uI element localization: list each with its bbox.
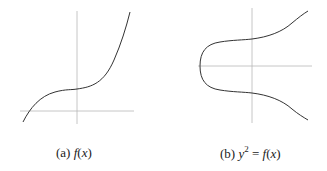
caption-a-label: (a) — [56, 145, 70, 160]
caption-b: (b) y2 = f(x) — [220, 145, 281, 162]
panel-b-elliptic-curve-lower — [200, 66, 308, 120]
caption-b-label: (b) — [220, 146, 235, 161]
caption-a: (a) f(x) — [56, 145, 92, 161]
panel-a-cubic-curve — [23, 12, 130, 122]
caption-b-exponent: 2 — [244, 144, 249, 154]
panel-b-plot — [198, 8, 312, 123]
caption-b-paren-close: ) — [276, 146, 280, 161]
caption-a-paren-close: ) — [87, 145, 91, 160]
panel-a-plot — [20, 11, 134, 124]
caption-b-equals: = — [252, 146, 259, 161]
panel-b-elliptic-curve-upper — [200, 11, 308, 66]
